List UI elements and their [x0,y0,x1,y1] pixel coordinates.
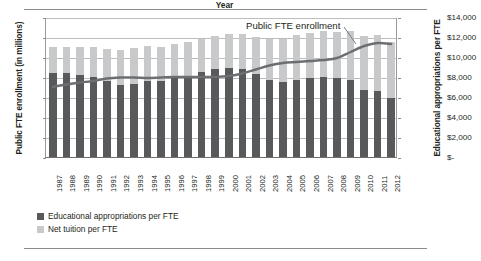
top-divider-rule [24,9,427,10]
x-axis-tick-label: 1993 [136,175,145,192]
x-axis-tick-label: 1998 [204,175,213,192]
right-tick-label: $10,000 [447,54,481,62]
enrollment-line-series [46,18,398,158]
left-axis-title: Public FTE enrollment (in millions) [14,13,24,163]
x-axis-tick-label: 2009 [353,175,362,192]
x-axis-tick-label: 2007 [326,175,335,192]
x-axis-tick-label: 2006 [312,175,321,192]
right-tick-mark [398,98,401,99]
x-axis-tick-label: 2008 [339,175,348,192]
x-axis-labels: 1987198819891990199119921993199419951996… [45,160,397,196]
x-axis-tick-label: 2012 [393,175,402,192]
right-tick-label: $6,000 [447,94,481,102]
x-axis-tick-label: 2010 [366,175,375,192]
x-axis-tick-label: 2004 [285,175,294,192]
plot-area: 02468101214 $-$2,000$4,000$6,000$8,000$1… [45,18,397,158]
right-tick-label: $2,000 [447,134,481,142]
right-tick-label: $8,000 [447,74,481,82]
x-axis-tick-label: 1994 [150,175,159,192]
right-tick-label: $14,000 [447,14,481,22]
x-axis-tick-label: 1996 [177,175,186,192]
enrollment-annotation-label: Public FTE enrollment [246,20,340,31]
right-tick-label: $4,000 [447,114,481,122]
legend-label: Educational appropriations per FTE [48,211,179,221]
right-tick-label: $12,000 [447,34,481,42]
x-axis-tick-label: 1987 [55,175,64,192]
x-axis-tick-label: 1997 [190,175,199,192]
right-tick-mark [398,118,401,119]
right-tick-mark [398,138,401,139]
right-tick-mark [398,158,401,159]
left-tick-mark [43,158,46,159]
x-axis-tick-label: 1991 [109,175,118,192]
enrollment-line-path [53,43,391,87]
x-axis-tick-label: 1988 [68,175,77,192]
x-axis-tick-label: 2005 [298,175,307,192]
x-axis-tick-label: 1999 [217,175,226,192]
x-axis-tick-label: 2003 [271,175,280,192]
chart-legend: Educational appropriations per FTENet tu… [37,210,179,236]
legend-item: Net tuition per FTE [37,223,179,235]
x-axis-tick-label: 1992 [122,175,131,192]
x-axis-tick-label: 1989 [82,175,91,192]
right-tick-mark [398,78,401,79]
x-axis-tick-label: 1990 [95,175,104,192]
right-axis-title: Educational appropriations per FTE [432,13,442,163]
right-tick-mark [398,38,401,39]
legend-swatch [37,213,44,220]
x-axis-tick-label: 2001 [244,175,253,192]
x-axis-tick-label: 2002 [258,175,267,192]
legend-swatch [37,226,44,233]
legend-label: Net tuition per FTE [48,224,118,234]
right-tick-label: $- [447,154,481,162]
x-axis-tick-label: 2000 [231,175,240,192]
right-tick-mark [398,18,401,19]
x-axis-tick-label: 2011 [380,176,389,192]
x-axis-tick-label: 1995 [163,175,172,192]
bottom-divider-rule [24,248,427,249]
legend-item: Educational appropriations per FTE [37,210,179,222]
right-tick-mark [398,58,401,59]
